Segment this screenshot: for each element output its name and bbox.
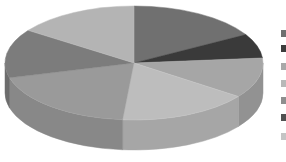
legend-swatch-2: [281, 45, 286, 52]
legend-swatch-1: [281, 30, 286, 37]
chart-legend: [281, 0, 286, 162]
pie-chart: [0, 0, 270, 162]
legend-swatch-3: [281, 63, 286, 70]
legend-swatch-4: [281, 80, 286, 87]
legend-swatch-5: [281, 97, 286, 104]
legend-swatch-7: [281, 133, 286, 140]
legend-swatch-6: [281, 114, 286, 121]
pie-top-faces: [5, 6, 263, 120]
